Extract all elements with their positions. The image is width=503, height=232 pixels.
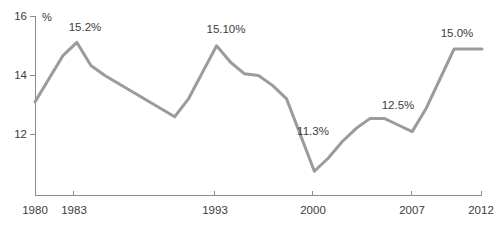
y-axis-unit-label: %	[42, 11, 52, 23]
annotation-1983: 15.2%	[69, 21, 102, 33]
y-tick-label-14: 14	[14, 69, 27, 81]
annotation-2000: 11.3%	[297, 125, 329, 137]
x-tick-label-2007: 2007	[399, 204, 425, 216]
data-series-line	[35, 42, 482, 171]
x-tick-label-1980: 1980	[22, 204, 48, 216]
y-tick-label-12: 12	[14, 128, 27, 140]
x-tick-label-2012: 2012	[468, 204, 494, 216]
annotation-1993: 15.10%	[206, 23, 245, 35]
annotation-2007: 12.5%	[382, 99, 415, 111]
x-tick-label-1993: 1993	[202, 204, 228, 216]
x-tick-label-2000: 2000	[300, 204, 326, 216]
annotation-2010: 15.0%	[441, 27, 474, 39]
y-tick-label-16: 16	[14, 10, 27, 22]
line-chart: 16 14 12 % 1980 1983 1993 2000 2007 2012…	[0, 0, 503, 232]
chart-canvas: 16 14 12 % 1980 1983 1993 2000 2007 2012…	[0, 0, 503, 232]
x-tick-label-1983: 1983	[61, 204, 87, 216]
